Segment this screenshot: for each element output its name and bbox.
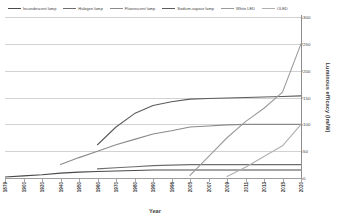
- y-tick-label: 250: [303, 41, 310, 46]
- x-tick-label: 1996: [169, 182, 174, 192]
- series-line-oled: [227, 124, 301, 176]
- x-tick-label: 1920: [40, 182, 45, 192]
- y-tick-mark: [301, 98, 304, 99]
- luminous-efficacy-chart: Incandescent lampHalogen lampFluorescent…: [0, 0, 339, 220]
- x-axis-title: Year: [0, 205, 310, 217]
- x-tick-label: 2020: [299, 182, 304, 192]
- legend-item-incandescent-lamp[interactable]: Incandescent lamp: [8, 6, 56, 11]
- legend-label: Fluorescent lamp: [125, 6, 155, 11]
- x-tick-label: 1950: [77, 182, 82, 192]
- x-tick-label: 1990: [151, 182, 156, 192]
- legend-item-fluorescent-lamp[interactable]: Fluorescent lamp: [110, 6, 155, 11]
- y-tick-label: 200: [303, 68, 310, 73]
- series-lines: [5, 17, 301, 178]
- y-tick-label: 50: [303, 149, 308, 154]
- x-tick-label: 1900: [21, 182, 26, 192]
- series-line-fluorescent-lamp: [61, 124, 302, 164]
- y-tick-mark: [301, 44, 304, 45]
- plot-area: [5, 17, 301, 178]
- y-tick-label: 150: [303, 95, 310, 100]
- x-tick-label: 2011: [243, 182, 248, 192]
- y-tick-mark: [301, 151, 304, 152]
- legend-item-white-led[interactable]: White LED: [221, 6, 255, 11]
- legend-label: Sodium-vapour lamp: [177, 6, 214, 11]
- y-axis-ticks: 050100150200250300: [303, 17, 319, 178]
- x-tick-label: 1970: [114, 182, 119, 192]
- legend-swatch-icon: [110, 8, 123, 9]
- legend-swatch-icon: [262, 8, 275, 9]
- chart-legend: Incandescent lampHalogen lampFluorescent…: [8, 2, 336, 14]
- x-tick-label: 1940: [58, 182, 63, 192]
- legend-label: OLED: [277, 6, 288, 11]
- legend-swatch-icon: [162, 8, 175, 9]
- x-tick-label: 2013: [262, 182, 267, 192]
- x-tick-label: 2005: [188, 182, 193, 192]
- x-tick-label: 1980: [132, 182, 137, 192]
- legend-label: Halogen lamp: [78, 6, 103, 11]
- y-tick-label: 100: [303, 122, 310, 127]
- series-line-white-led: [190, 44, 301, 175]
- x-tick-label: 1960: [95, 182, 100, 192]
- legend-swatch-icon: [221, 8, 234, 9]
- y-tick-mark: [301, 17, 304, 18]
- x-axis-ticks: 1879190019201940195019601970198019901996…: [5, 179, 301, 205]
- y-tick-mark: [301, 71, 304, 72]
- series-line-incandescent-lamp: [5, 170, 301, 177]
- y-tick-mark: [301, 124, 304, 125]
- x-tick-label: 2015: [280, 182, 285, 192]
- legend-label: Incandescent lamp: [23, 6, 56, 11]
- y-tick-label: 0: [303, 176, 305, 181]
- legend-item-sodium-vapour-lamp[interactable]: Sodium-vapour lamp: [162, 6, 214, 11]
- x-tick-label: 2009: [225, 182, 230, 192]
- legend-item-halogen-lamp[interactable]: Halogen lamp: [63, 6, 103, 11]
- x-tick-label: 2007: [206, 182, 211, 192]
- y-axis-title: Luminous efficacy (lm/W): [320, 17, 336, 178]
- x-tick-label: 1879: [3, 182, 8, 192]
- legend-label: White LED: [236, 6, 255, 11]
- legend-swatch-icon: [8, 8, 21, 9]
- y-tick-label: 300: [303, 15, 310, 20]
- legend-swatch-icon: [63, 8, 76, 9]
- legend-item-oled[interactable]: OLED: [262, 6, 288, 11]
